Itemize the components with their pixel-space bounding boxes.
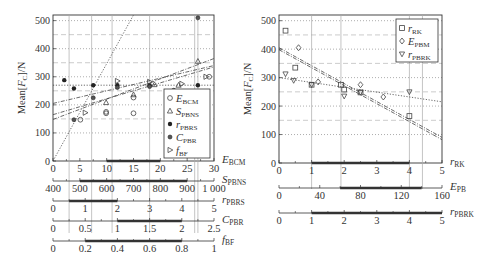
- x-tick-label: 40: [315, 190, 326, 201]
- x-axis-c-pbr: 00.511.522.5CPBR: [50, 213, 243, 234]
- data-point: [91, 83, 95, 87]
- x-tick-label: 5: [77, 163, 82, 174]
- x-tick-label: 0: [50, 243, 55, 254]
- x-tick-label: 1: [211, 243, 216, 254]
- x-axis-r-pbrk: 012345rPBRK: [276, 205, 474, 226]
- data-point: [72, 86, 76, 90]
- x-axis-e-bcm: 051015202530EBCM: [50, 153, 245, 174]
- x-tick-label: 1: [309, 215, 314, 226]
- y-tick-label: 100: [35, 127, 50, 138]
- x-tick-label: 3: [147, 203, 152, 214]
- x-tick-label: 3: [374, 165, 379, 176]
- x-tick-label: 20: [155, 163, 166, 174]
- x-tick-label: 0.6: [143, 243, 156, 254]
- data-point: [316, 79, 321, 85]
- y-tick-label: 500: [261, 15, 276, 26]
- data-point: [83, 110, 88, 115]
- data-point: [104, 100, 109, 105]
- x-tick-label: 0.2: [79, 243, 92, 254]
- data-point: [78, 117, 83, 122]
- y-tick-label: 400: [35, 43, 50, 54]
- x-tick-label: 800: [152, 183, 168, 194]
- data-point: [196, 83, 200, 87]
- data-point: [180, 81, 185, 86]
- legend: EBCMSPBNSrPBRSCPBRfBF: [164, 89, 210, 158]
- data-point: [131, 92, 136, 97]
- y-tick-label: 300: [35, 71, 50, 82]
- x-tick-label: 15: [128, 163, 139, 174]
- legend-marker-icon: [168, 135, 172, 139]
- x-axis-label: SPBNS: [222, 173, 246, 187]
- x-tick-label: 0.8: [175, 243, 188, 254]
- x-tick-label: 400: [45, 183, 61, 194]
- data-point: [381, 94, 386, 100]
- x-tick-label: 5: [439, 165, 444, 176]
- x-tick-label: 4: [407, 165, 413, 176]
- x-axis-label: rPBRS: [222, 193, 245, 207]
- legend-marker-icon: [168, 122, 172, 126]
- legend: rRKEPBMrPBRK: [396, 19, 438, 62]
- x-tick-label: 900: [179, 183, 195, 194]
- x-tick-label: 0: [50, 223, 55, 234]
- x-tick-label: 1: [83, 203, 88, 214]
- x-tick-label: 500: [72, 183, 88, 194]
- y-tick-label: 400: [261, 44, 276, 55]
- data-point: [148, 85, 152, 89]
- x-tick-label: 4: [407, 215, 413, 226]
- data-point: [291, 78, 296, 83]
- x-tick-label: 0.5: [79, 223, 92, 234]
- data-point: [293, 65, 298, 70]
- data-point: [283, 28, 288, 33]
- x-axis-label: rRK: [450, 155, 465, 169]
- x-tick-label: 1: [115, 223, 120, 234]
- x-tick-label: 2: [179, 223, 184, 234]
- x-axis-e-pb: 04080120160EPB: [276, 180, 466, 201]
- data-point: [72, 118, 76, 122]
- y-tick-label: 100: [261, 129, 276, 140]
- x-tick-label: 2: [342, 165, 347, 176]
- chart-panel-2: 0100200300400500Mean[FC]/NrRKEPBMrPBRK01…: [242, 15, 474, 226]
- data-point: [62, 78, 66, 82]
- x-tick-label: 4: [179, 203, 185, 214]
- fit-line: [53, 15, 134, 161]
- x-tick-label: 0: [276, 190, 281, 201]
- data-point: [196, 16, 200, 20]
- x-tick-label: 2: [115, 203, 120, 214]
- x-tick-label: 120: [393, 190, 409, 201]
- x-axis-s-pbns: 4005006007008009001 000SPBNS: [45, 173, 246, 194]
- chart-canvas: 0100200300400500Mean[FC]/NEBCMSPBNSrPBRS…: [0, 0, 484, 259]
- x-tick-label: 0: [276, 215, 281, 226]
- x-tick-label: 10: [101, 163, 112, 174]
- x-tick-label: 0: [50, 203, 55, 214]
- figure: 0100200300400500Mean[FC]/NEBCMSPBNSrPBRS…: [0, 0, 484, 259]
- data-point: [91, 96, 95, 100]
- x-tick-label: 1: [309, 165, 314, 176]
- data-point: [296, 45, 301, 51]
- x-axis-label: fBF: [222, 233, 234, 247]
- y-tick-label: 0: [271, 158, 276, 169]
- x-axis-r-rk: 012345rRK: [276, 155, 465, 176]
- y-tick-label: 200: [261, 101, 276, 112]
- x-tick-label: 2.5: [207, 223, 220, 234]
- x-axis-r-pbrs: 012345rPBRS: [50, 193, 244, 214]
- x-tick-label: 2: [342, 215, 347, 226]
- x-tick-label: 5: [211, 203, 216, 214]
- x-axis-label: EBCM: [221, 153, 246, 167]
- y-axis-label: Mean[FC]/N: [16, 61, 29, 114]
- chart-panel-1: 0100200300400500Mean[FC]/NEBCMSPBNSrPBRS…: [16, 15, 246, 254]
- x-tick-label: 5: [439, 215, 444, 226]
- x-axis-label: EPB: [449, 180, 466, 194]
- x-tick-label: 80: [355, 190, 366, 201]
- x-tick-label: 700: [126, 183, 142, 194]
- data-point: [342, 94, 347, 99]
- y-tick-label: 200: [35, 99, 50, 110]
- data-point: [358, 82, 363, 88]
- x-tick-label: 1.5: [143, 223, 156, 234]
- data-point: [283, 72, 288, 77]
- x-tick-label: 160: [434, 190, 450, 201]
- y-tick-label: 500: [35, 15, 50, 26]
- data-point: [115, 78, 120, 83]
- y-tick-label: 0: [45, 156, 50, 167]
- x-tick-label: 600: [99, 183, 115, 194]
- y-axis-label: Mean[FC]/N: [242, 62, 255, 115]
